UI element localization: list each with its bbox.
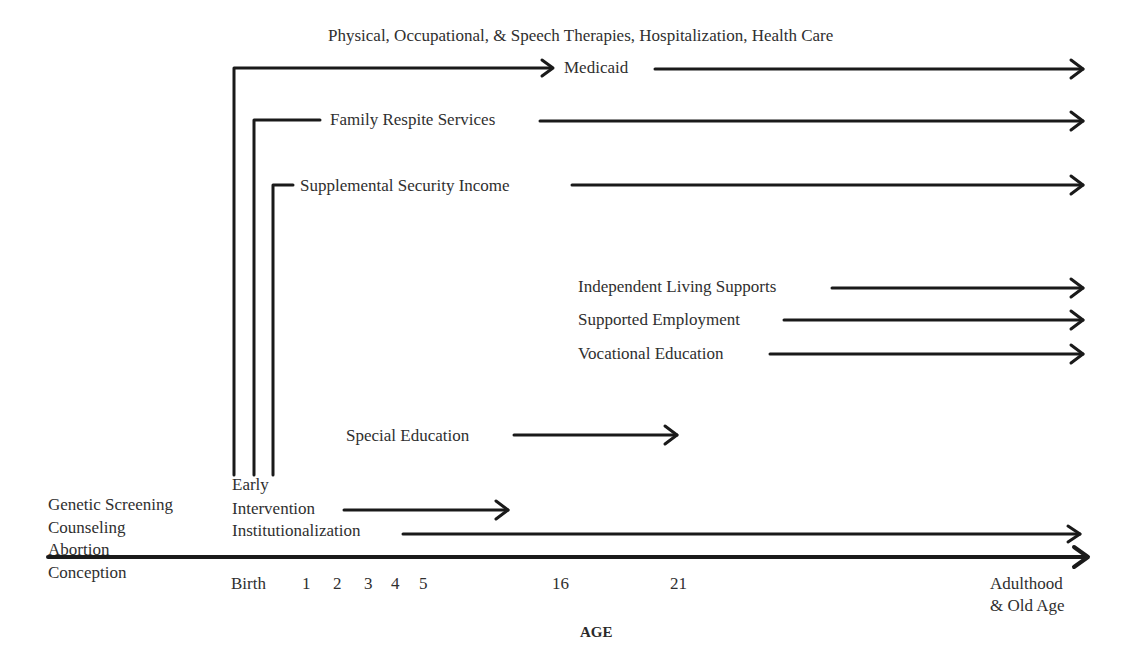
tick-5: 5 [419,574,428,594]
tick-1: 1 [302,574,311,594]
ssi-label: Supplemental Security Income [300,176,510,196]
prenatal-conception-label: Conception [48,563,126,583]
tick-4: 4 [391,574,400,594]
family-respite-bracket [254,120,320,475]
prenatal-abortion-label: Abortion [48,540,109,560]
supported-employment-label: Supported Employment [578,310,740,330]
health-care-header-label: Physical, Occupational, & Speech Therapi… [328,26,833,46]
prenatal-genetic-screening-label: Genetic Screening [48,495,173,515]
early-intervention-label-line2: Intervention [232,499,315,519]
prenatal-counseling-label: Counseling [48,518,125,538]
vocational-education-label: Vocational Education [578,344,724,364]
lifespan-services-diagram [0,0,1138,658]
medicaid-label: Medicaid [564,58,628,78]
family-respite-label: Family Respite Services [330,110,495,130]
tick-21: 21 [670,574,687,594]
early-intervention-label-line1: Early [232,475,269,495]
tick-birth: Birth [231,574,266,594]
institutionalization-label: Institutionalization [232,521,360,541]
axis-title: AGE [580,624,613,641]
tick-3: 3 [364,574,373,594]
axis-end-label-line1: Adulthood [990,574,1063,594]
ssi-bracket [273,185,293,475]
axis-end-label-line2: & Old Age [990,596,1065,616]
independent-living-label: Independent Living Supports [578,277,776,297]
special-education-label: Special Education [346,426,469,446]
tick-2: 2 [333,574,342,594]
tick-16: 16 [552,574,569,594]
